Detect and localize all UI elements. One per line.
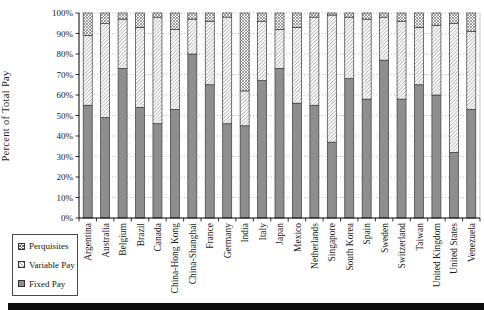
fixed-pay-segment (345, 79, 354, 218)
fixed-pay-segment (432, 95, 441, 218)
bar-taiwan (414, 13, 423, 218)
perquisites-swatch-icon (18, 243, 25, 250)
fixed-pay-segment (397, 99, 406, 218)
bar-germany (223, 13, 232, 218)
perquisites-segment (83, 13, 92, 36)
variable-pay-segment (83, 36, 92, 106)
variable-pay-segment (223, 17, 232, 124)
perquisites-segment (188, 13, 197, 19)
category-label: United States (449, 223, 459, 274)
bar-spain (362, 13, 371, 218)
y-axis-tick-label: 70% (57, 70, 74, 80)
category-label: China-Shanghai (188, 223, 198, 285)
perquisites-segment (275, 13, 284, 29)
fixed-pay-swatch-icon (18, 280, 25, 287)
category-label: Sweden (380, 223, 390, 253)
variable-pay-segment (188, 19, 197, 54)
bar-india (240, 13, 249, 218)
bar-united-states (449, 13, 458, 218)
fixed-pay-segment (380, 60, 389, 218)
category-label: Argentina (83, 222, 93, 261)
fixed-pay-segment (292, 103, 301, 218)
perquisites-segment (258, 13, 267, 21)
fixed-pay-segment (118, 68, 127, 218)
chart-figure: 0%10%20%30%40%50%60%70%80%90%100% Argent… (0, 0, 484, 310)
y-axis-tick-label: 100% (52, 8, 74, 18)
perquisites-segment (449, 13, 458, 23)
variable-pay-swatch-icon (18, 261, 25, 268)
category-label: Brazil (136, 223, 146, 247)
bar-argentina (83, 13, 92, 218)
perquisites-segment (327, 13, 336, 15)
bar-united-kingdom (432, 13, 441, 218)
legend-item-variable-pay: Variable Pay (18, 260, 77, 270)
bar-china-hong-kong (170, 13, 179, 218)
y-axis-tick-label: 40% (57, 131, 74, 141)
legend-item-perquisites: Perquisites (18, 241, 77, 251)
fixed-pay-segment (188, 54, 197, 218)
fixed-pay-segment (275, 68, 284, 218)
category-label: United Kingdom (432, 222, 442, 287)
y-axis-tick-label: 0% (61, 213, 74, 223)
bar-switzerland (397, 13, 406, 218)
perquisites-segment (118, 13, 127, 19)
perquisites-segment (292, 13, 301, 27)
perquisites-segment (432, 13, 441, 25)
perquisites-segment (414, 13, 423, 27)
category-label: Canada (153, 222, 163, 251)
variable-pay-segment (467, 31, 476, 109)
variable-pay-segment (240, 91, 249, 126)
perquisites-segment (310, 13, 319, 17)
fixed-pay-segment (153, 124, 162, 218)
bar-china-shanghai (188, 13, 197, 218)
bar-sweden (380, 13, 389, 218)
perquisites-segment (362, 13, 371, 19)
variable-pay-segment (380, 17, 389, 60)
variable-pay-segment (327, 15, 336, 142)
fixed-pay-segment (327, 142, 336, 218)
category-label: Mexico (293, 223, 303, 252)
variable-pay-segment (258, 21, 267, 80)
bar-brazil (136, 13, 145, 218)
category-label: Netherlands (310, 223, 320, 269)
bar-italy (258, 13, 267, 218)
legend-label-perquisites: Perquisites (29, 241, 69, 251)
legend-label-variable-pay: Variable Pay (29, 260, 75, 270)
category-label: Australia (101, 222, 111, 258)
variable-pay-segment (449, 23, 458, 152)
bars-group (83, 13, 476, 218)
fixed-pay-segment (205, 85, 214, 218)
y-axis-tick-label: 10% (57, 193, 74, 203)
fixed-pay-segment (136, 107, 145, 218)
variable-pay-segment (101, 23, 110, 117)
perquisites-segment (153, 13, 162, 17)
category-label: Singapore (327, 223, 337, 262)
fixed-pay-segment (414, 85, 423, 218)
y-axis-tick-label: 80% (57, 49, 74, 59)
fixed-pay-segment (170, 109, 179, 218)
variable-pay-segment (414, 27, 423, 84)
fixed-pay-segment (258, 81, 267, 218)
fixed-pay-segment (223, 124, 232, 218)
bar-belgium (118, 13, 127, 218)
category-label: China-Hong Kong (170, 223, 180, 294)
perquisites-segment (397, 13, 406, 21)
variable-pay-segment (345, 17, 354, 79)
bar-japan (275, 13, 284, 218)
variable-pay-segment (310, 17, 319, 105)
bar-australia (101, 13, 110, 218)
bar-netherlands (310, 13, 319, 218)
bar-singapore (327, 13, 336, 218)
variable-pay-segment (432, 25, 441, 95)
perquisites-segment (223, 13, 232, 17)
category-label: Belgium (118, 222, 128, 255)
perquisites-segment (467, 13, 476, 31)
x-axis-category-labels: ArgentinaAustraliaBelgiumBrazilCanadaChi… (83, 222, 477, 293)
perquisites-segment (240, 13, 249, 91)
bar-south-korea (345, 13, 354, 218)
category-label: South Korea (345, 222, 355, 271)
category-label: Germany (223, 223, 233, 259)
bar-venezuela (467, 13, 476, 218)
fixed-pay-segment (467, 109, 476, 218)
variable-pay-segment (397, 21, 406, 99)
